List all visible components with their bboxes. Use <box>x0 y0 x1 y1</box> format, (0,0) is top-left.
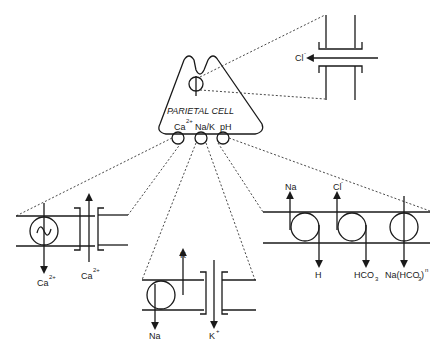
chloride-channel-panel: Cl - <box>295 15 378 100</box>
k-label: K <box>180 250 186 260</box>
calcium-panel: Ca 2+ Ca 2+ <box>16 197 128 288</box>
parietal-cell: PARIETAL CELL Ca 2+ Na/K pH <box>159 56 263 144</box>
svg-text:-: - <box>304 50 306 56</box>
svg-text:3: 3 <box>375 276 379 282</box>
ca-channel-label: Ca <box>81 271 93 281</box>
svg-text:2+: 2+ <box>186 118 193 124</box>
cl-hco3-exchanger-icon <box>338 213 366 241</box>
hco3-label: HCO <box>354 270 374 280</box>
chloride-label: Cl <box>295 53 304 63</box>
na-hco3-label: Na(HCO <box>385 270 420 280</box>
ca-exchanger-label: Ca <box>37 278 49 288</box>
port-label-ph: pH <box>220 122 232 132</box>
k-channel-label: K <box>209 331 215 341</box>
parietal-cell-diagram: PARIETAL CELL Ca 2+ Na/K pH Cl - <box>0 0 444 351</box>
na-h-exchanger-icon <box>291 213 319 241</box>
svg-text:): ) <box>421 270 424 280</box>
port-label-nak: Na/K <box>195 122 215 132</box>
na-k-pump-icon <box>147 281 175 309</box>
svg-text:2+: 2+ <box>93 267 100 273</box>
na-label-ph: Na <box>285 182 297 192</box>
cell-title: PARIETAL CELL <box>167 106 234 116</box>
na-k-panel: K Na K + <box>142 250 256 341</box>
svg-text:+: + <box>216 328 220 334</box>
zoom-lines <box>16 15 430 280</box>
svg-text:2+: 2+ <box>49 274 56 280</box>
svg-text:-: - <box>341 179 343 185</box>
svg-text:n: n <box>425 267 428 273</box>
h-label: H <box>315 270 322 280</box>
port-label-ca: Ca <box>174 122 186 132</box>
ph-panel: Na H Cl - HCO 3 Na(HCO 3 ) n <box>263 179 430 282</box>
na-label: Na <box>149 331 161 341</box>
